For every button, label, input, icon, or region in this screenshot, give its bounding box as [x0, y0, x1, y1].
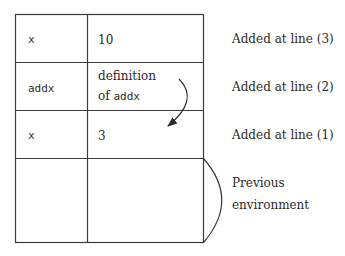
- row-1-annotation: Added at line (3): [232, 28, 334, 50]
- previous-environment-label: Previous environment: [232, 172, 309, 216]
- previous-environment-line2: environment: [232, 194, 309, 216]
- row-2-value-line2: of addx: [98, 86, 156, 107]
- row-2-value-code: addx: [113, 90, 140, 103]
- row-3-name: x: [28, 129, 35, 142]
- row-1-name: x: [28, 33, 35, 46]
- row-3-value: 3: [98, 126, 106, 146]
- row-1-value: 10: [98, 30, 113, 50]
- binding-arrow: [168, 79, 187, 126]
- previous-environment-line1: Previous: [232, 172, 309, 194]
- row-2-value: definition of addx: [98, 66, 156, 107]
- row-2-name: addx: [28, 82, 55, 95]
- row-2-value-prefix: of: [98, 89, 113, 103]
- row-2-annotation: Added at line (2): [232, 76, 334, 98]
- row-2-value-line1: definition: [98, 66, 156, 86]
- environment-diagram: x 10 Added at line (3) addx definition o…: [0, 0, 345, 256]
- row-3-annotation: Added at line (1): [232, 124, 334, 146]
